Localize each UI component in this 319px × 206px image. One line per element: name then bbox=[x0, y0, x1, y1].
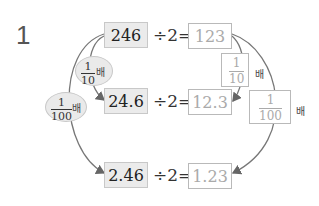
left-suffix-1: 배 bbox=[96, 64, 105, 79]
left-fraction-2: 1100 bbox=[51, 97, 72, 122]
given-value-2: 24.6 bbox=[104, 88, 148, 114]
problem-number: 1 bbox=[16, 20, 30, 51]
answer-box-1[interactable]: 123 bbox=[188, 23, 232, 49]
given-value-1: 246 bbox=[104, 22, 148, 48]
right-label-box-1[interactable]: 110 bbox=[221, 53, 249, 87]
left-fraction-1: 110 bbox=[81, 61, 95, 86]
given-value-3: 2.46 bbox=[104, 162, 148, 188]
right-label-box-2[interactable]: 1100 bbox=[249, 90, 291, 124]
operator-2: ÷2= bbox=[153, 88, 192, 114]
answer-box-3[interactable]: 1.23 bbox=[188, 163, 232, 189]
operator-3: ÷2= bbox=[153, 162, 192, 188]
right-suffix-1: 배 bbox=[255, 66, 264, 81]
operator-1: ÷2= bbox=[153, 22, 192, 48]
answer-box-2[interactable]: 12.3 bbox=[188, 89, 232, 115]
left-suffix-2: 배 bbox=[72, 100, 81, 115]
right-suffix-2: 배 bbox=[296, 103, 305, 118]
